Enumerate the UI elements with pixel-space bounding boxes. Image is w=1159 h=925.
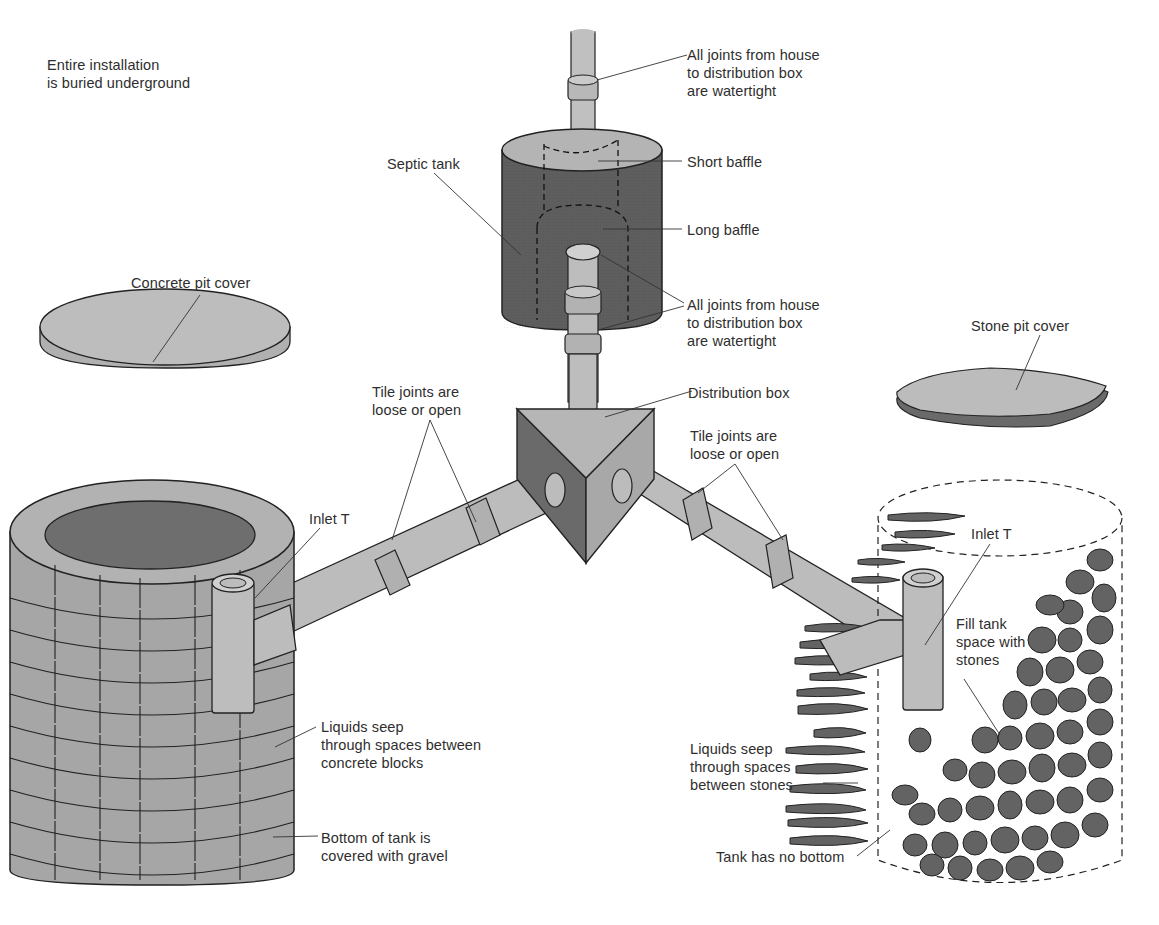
house-inlet-pipe — [568, 29, 598, 132]
tile-joints-right-label: Tile joints are loose or open — [690, 427, 779, 463]
concrete-block-pit — [10, 480, 296, 885]
joints-watertight-mid-label: All joints from house to distribution bo… — [687, 296, 820, 350]
concrete-pit-cover-label: Concrete pit cover — [131, 274, 250, 292]
short-baffle-label: Short baffle — [687, 153, 762, 171]
septic-tank — [502, 129, 662, 414]
inlet-t-left-label: Inlet T — [309, 510, 350, 528]
long-baffle-label: Long baffle — [687, 221, 760, 239]
inlet-t-right-label: Inlet T — [971, 525, 1012, 543]
right-drain-pipe — [618, 462, 905, 650]
joints-watertight-top-label: All joints from house to distribution bo… — [687, 46, 820, 100]
diagram-canvas — [0, 0, 1159, 925]
stone-pit-cover — [897, 368, 1108, 427]
distribution-box-label: Distribution box — [688, 384, 790, 402]
concrete-pit-cover — [40, 289, 290, 368]
liquids-seep-stones-label: Liquids seep through spaces between ston… — [690, 740, 793, 794]
liquids-seep-blocks-label: Liquids seep through spaces between conc… — [321, 718, 481, 772]
distribution-box — [517, 409, 654, 563]
installation-note-label: Entire installation is buried undergroun… — [47, 56, 190, 92]
bottom-gravel-label: Bottom of tank is covered with gravel — [321, 829, 448, 865]
fill-tank-stones-label: Fill tank space with stones — [956, 615, 1026, 669]
stone-pit-cover-label: Stone pit cover — [971, 317, 1069, 335]
septic-tank-label: Septic tank — [387, 155, 460, 173]
stone-pit — [786, 480, 1122, 883]
tile-joints-left-label: Tile joints are loose or open — [372, 383, 461, 419]
tank-no-bottom-label: Tank has no bottom — [716, 848, 844, 866]
septic-system-diagram: Entire installation is buried undergroun… — [0, 0, 1159, 925]
